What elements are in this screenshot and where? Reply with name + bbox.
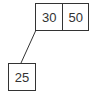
root-node: 30 50 xyxy=(35,3,89,31)
root-key-1: 50 xyxy=(62,4,88,30)
child-node-left: 25 xyxy=(8,63,36,91)
root-key-0: 30 xyxy=(36,4,62,30)
child-left-key-0: 25 xyxy=(9,64,35,90)
edge-root-to-child xyxy=(21,30,36,63)
